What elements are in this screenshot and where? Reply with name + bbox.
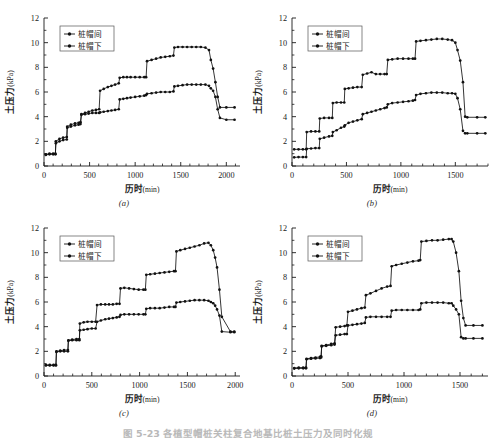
- svg-text:12: 12: [279, 14, 287, 23]
- svg-text:4: 4: [35, 113, 39, 122]
- svg-text:桩帽间: 桩帽间: [326, 239, 350, 249]
- svg-text:2000: 2000: [227, 381, 243, 390]
- svg-text:土压力(kPa): 土压力(kPa): [4, 70, 15, 114]
- svg-text:0: 0: [283, 162, 287, 171]
- svg-text:10: 10: [279, 39, 287, 48]
- svg-text:4: 4: [283, 113, 287, 122]
- chart-panel-c: 0246810120500100015002000历时(min)土压力(kPa)…: [0, 210, 248, 420]
- svg-text:历时(min): 历时(min): [125, 393, 160, 404]
- svg-text:2: 2: [35, 137, 39, 146]
- svg-text:土压力(kPa): 土压力(kPa): [4, 280, 15, 324]
- svg-text:6: 6: [35, 298, 39, 307]
- svg-text:0: 0: [290, 171, 294, 180]
- svg-text:1500: 1500: [452, 381, 468, 390]
- svg-text:2: 2: [283, 347, 287, 356]
- svg-text:8: 8: [35, 63, 39, 72]
- svg-text:6: 6: [283, 88, 287, 97]
- svg-text:0: 0: [283, 372, 287, 381]
- svg-text:0: 0: [290, 381, 294, 390]
- svg-text:历时(min): 历时(min): [373, 393, 408, 404]
- chart-panel-d: 024681012050010001500历时(min)土压力(kPa)桩帽间桩…: [248, 210, 496, 420]
- chart-svg-d: 024681012050010001500历时(min)土压力(kPa)桩帽间桩…: [248, 210, 496, 420]
- svg-text:1500: 1500: [173, 171, 189, 180]
- panel-label-c: (c): [0, 408, 248, 418]
- svg-text:12: 12: [279, 224, 287, 233]
- svg-text:1500: 1500: [447, 171, 463, 180]
- svg-text:0: 0: [35, 372, 39, 381]
- svg-text:4: 4: [35, 323, 39, 332]
- svg-text:历时(min): 历时(min): [373, 183, 408, 194]
- svg-text:8: 8: [283, 63, 287, 72]
- svg-text:桩帽间: 桩帽间: [78, 29, 102, 39]
- svg-text:500: 500: [86, 381, 98, 390]
- chart-svg-c: 0246810120500100015002000历时(min)土压力(kPa)…: [0, 210, 248, 420]
- svg-text:500: 500: [342, 381, 354, 390]
- svg-text:2: 2: [283, 137, 287, 146]
- panel-label-d: (d): [248, 408, 496, 418]
- svg-text:2: 2: [35, 347, 39, 356]
- svg-text:1000: 1000: [393, 171, 409, 180]
- svg-text:1000: 1000: [131, 381, 147, 390]
- chart-svg-b: 024681012050010001500历时(min)土压力(kPa)桩帽间桩…: [248, 0, 496, 210]
- svg-text:桩帽下: 桩帽下: [78, 251, 102, 261]
- svg-text:6: 6: [35, 88, 39, 97]
- chart-panel-a: 0246810120500100015002000历时(min)土压力(kPa)…: [0, 0, 248, 210]
- panel-label-a: (a): [0, 198, 248, 208]
- svg-text:2000: 2000: [218, 171, 234, 180]
- svg-text:10: 10: [279, 249, 287, 258]
- svg-text:历时(min): 历时(min): [125, 183, 160, 194]
- svg-text:桩帽下: 桩帽下: [326, 41, 350, 51]
- svg-text:8: 8: [35, 273, 39, 282]
- svg-text:8: 8: [283, 273, 287, 282]
- figure-caption: 图 5-23 各植型帽桩关柱复合地基比桩土压力及同时化规: [0, 427, 496, 438]
- svg-text:0: 0: [42, 171, 46, 180]
- svg-text:4: 4: [283, 323, 287, 332]
- svg-text:12: 12: [31, 224, 39, 233]
- svg-text:500: 500: [340, 171, 352, 180]
- svg-text:桩帽下: 桩帽下: [326, 251, 350, 261]
- svg-text:桩帽下: 桩帽下: [78, 41, 102, 51]
- chart-panel-b: 024681012050010001500历时(min)土压力(kPa)桩帽间桩…: [248, 0, 496, 210]
- panel-label-b: (b): [248, 198, 496, 208]
- svg-text:土压力(kPa): 土压力(kPa): [252, 70, 263, 114]
- svg-text:0: 0: [35, 162, 39, 171]
- svg-text:500: 500: [83, 171, 95, 180]
- svg-text:12: 12: [31, 14, 39, 23]
- chart-svg-a: 0246810120500100015002000历时(min)土压力(kPa)…: [0, 0, 248, 210]
- svg-text:土压力(kPa): 土压力(kPa): [252, 280, 263, 324]
- svg-text:1000: 1000: [396, 381, 412, 390]
- svg-text:0: 0: [42, 381, 46, 390]
- svg-text:1000: 1000: [127, 171, 143, 180]
- svg-text:10: 10: [31, 249, 39, 258]
- svg-text:6: 6: [283, 298, 287, 307]
- svg-text:1500: 1500: [179, 381, 195, 390]
- svg-text:10: 10: [31, 39, 39, 48]
- svg-text:桩帽间: 桩帽间: [326, 29, 350, 39]
- svg-text:桩帽间: 桩帽间: [78, 239, 102, 249]
